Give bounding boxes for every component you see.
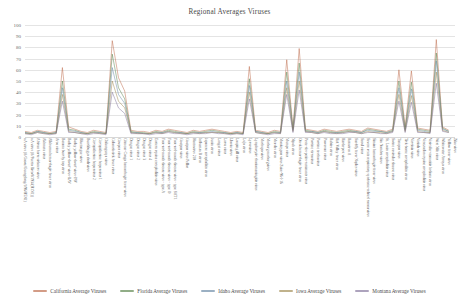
x-axis-tick-label: Crimean-Congo hemorrhagic fever virus <box>123 138 127 197</box>
plot-area <box>25 25 455 137</box>
x-axis-tick-label: Barley yellow dwarf virus-RAV <box>66 138 70 184</box>
x-axis-tick-label: Goatpox virus <box>179 138 183 158</box>
x-axis-tick-label: Foot-and-mouth disease virus - type A <box>160 138 164 193</box>
legend-label: Iowa Average Viruses <box>296 288 341 294</box>
x-axis-tick-label: Colorado tick fever virus <box>110 138 114 174</box>
x-axis-tick-label: Monkeypox virus Zaire-96-I-16 <box>278 138 282 184</box>
y-axis-tick: 80 <box>16 45 21 50</box>
y-axis-tick: 60 <box>16 67 21 72</box>
series-line <box>25 40 449 133</box>
x-axis-tick-label: Lyssavirus <box>247 138 251 153</box>
x-axis-tick-label: Lujo virus <box>241 138 245 153</box>
x-axis-tick-label: Severe acute respiratory syndrome-relate… <box>366 138 370 217</box>
legend-color-swatch <box>279 290 293 291</box>
series-line <box>25 72 449 134</box>
x-axis-tick-label: Vaccinia virus <box>409 138 413 158</box>
chart-title: Regional Averages Viruses <box>0 8 459 16</box>
x-axis-tick-label: Langat virus <box>216 138 220 156</box>
x-axis-tick-label: Chikungunya virus <box>104 138 108 165</box>
y-axis: 0102030405060708090100 <box>0 25 24 137</box>
legend-color-swatch <box>33 290 47 291</box>
series-line <box>25 53 449 134</box>
x-axis-tick-label: Cowpox virus <box>116 138 120 158</box>
x-axis-tick-label: Powassan virus <box>322 138 326 160</box>
x-axis-tick-label: Eastern equine encephalitis virus <box>154 138 158 185</box>
x-axis-tick-label: Vesicular stomatitis Indiana virus <box>428 138 432 186</box>
x-axis-tick-label: Tanapox virus <box>397 138 401 158</box>
legend-item[interactable]: Florida Average Viruses <box>120 288 187 294</box>
x-axis-tick-label: Measles virus <box>272 138 276 158</box>
x-axis-tick-label: Aroa virus <box>54 138 58 153</box>
x-axis-tick-label: Simian hemorrhagic fever virus <box>372 138 376 184</box>
x-axis-tick-label: Rabies virus <box>328 138 332 156</box>
x-axis-tick-label: Banana bunchy top virus <box>60 138 64 174</box>
x-axis-tick-label: St. Louis encephalitis virus <box>384 138 388 177</box>
x-axis-tick-label: Dengue virus 1 <box>129 138 133 160</box>
x-axis-tick-label: Japanese encephalitis virus <box>204 138 208 177</box>
y-axis-tick: 0 <box>19 135 22 140</box>
x-axis-tick-label: Rinderpest virus <box>341 138 345 162</box>
x-axis-tick-label: Foot-and-mouth disease virus - type O <box>166 138 170 193</box>
x-axis-tick-label: Junin virus <box>210 138 214 154</box>
x-axis-tick-label: Barley yellow dwarf virus-PAV <box>73 138 77 183</box>
x-axis-tick-label: Dengue virus 4 <box>147 138 151 160</box>
y-axis-tick: 90 <box>16 34 21 39</box>
y-axis-tick: 40 <box>16 90 21 95</box>
legend-item[interactable]: California Average Viruses <box>33 288 106 294</box>
x-axis-tick-label: Porcine teschovirus <box>316 138 320 166</box>
x-axis-tick-label: Porcine circovirus <box>309 138 313 164</box>
legend-color-swatch <box>120 290 134 291</box>
y-axis-tick: 20 <box>16 112 21 117</box>
x-axis-tick-label: Sandfly fever Naples virus <box>353 138 357 176</box>
legend-item[interactable]: Montana Average Viruses <box>355 288 425 294</box>
legend-label: Idaho Average Viruses <box>218 288 265 294</box>
x-axis-tick-label: Foot-and-mouth disease virus - type SAT … <box>172 138 176 200</box>
x-axis-tick-label: Zika virus <box>453 138 457 153</box>
x-axis-tick-label: Yellow fever virus <box>447 138 451 165</box>
x-axis-tick-label: Tick-borne encephalitis virus <box>403 138 407 180</box>
x-axis-tick-label: Lymphocytic choriomeningitis virus <box>253 138 257 190</box>
x-axis-tick-label: Influenza B virus <box>197 138 201 163</box>
x-axis-tick-label: Rift Valley fever virus <box>334 138 338 170</box>
x-axis-tick-label: Alkhurma hemorrhagic fever virus <box>48 138 52 188</box>
x-axis-tick-label: Rotavirus A <box>347 138 351 155</box>
x-axis-tick-label: Bluetongue virus <box>79 138 83 163</box>
legend-item[interactable]: Iowa Average Viruses <box>279 288 341 294</box>
x-axis-tick-label: Whitewater Arroyo virus <box>440 138 444 174</box>
legend-color-swatch <box>201 290 215 291</box>
x-axis-tick-label: Akhmeta virus <box>42 138 46 159</box>
x-axis-tick-label: Machupo virus <box>260 138 264 160</box>
x-axis-tick-label: Bundibugyo ebolavirus <box>85 138 89 172</box>
x-axis-tick-label: Variola virus <box>415 138 419 156</box>
x-axis-tick-label: a A virus (A/Puerto Rico/8/1934(H1N1)) <box>29 138 33 197</box>
x-axis-tick-label: African horse sickness virus <box>35 138 39 179</box>
x-axis-tick-label: Peste-des-petits-ruminants virus <box>303 138 307 184</box>
y-axis-tick: 50 <box>16 79 21 84</box>
series-lines <box>25 25 455 137</box>
x-axis-labels: a A virus (A/Goose/Guangdong/1/96/H5N1)a… <box>25 138 455 263</box>
y-axis-tick: 30 <box>16 101 21 106</box>
legend-label: California Average Viruses <box>50 288 106 294</box>
legend-label: Florida Average Viruses <box>137 288 187 294</box>
legend-item[interactable]: Idaho Average Viruses <box>201 288 265 294</box>
y-axis-tick: 10 <box>16 123 21 128</box>
y-axis-tick: 70 <box>16 56 21 61</box>
x-axis-tick-label: West Nile virus <box>434 138 438 160</box>
chart-legend: California Average VirusesFlorida Averag… <box>0 284 459 298</box>
x-axis-tick-label: Dengue virus 3 <box>141 138 145 160</box>
x-axis-tick-label: Marburg marburgvirus <box>266 138 270 171</box>
x-axis-tick-label: Hantavirus 210 <box>191 138 195 160</box>
series-line <box>25 83 449 135</box>
series-line <box>25 61 449 134</box>
x-axis-tick-label: a A virus (A/Goose/Guangdong/1/96/H5N1) <box>23 138 27 202</box>
x-axis-tick-label: Swine vesicular disease virus <box>390 138 394 180</box>
legend-label: Montana Average Viruses <box>372 288 425 294</box>
x-axis-tick-label: Nipah virus <box>291 138 295 155</box>
x-axis-tick-label: Goatpox virus Pellor <box>185 138 189 168</box>
x-axis-tick-label: Seoul virus <box>359 138 363 154</box>
x-axis-tick-label: Cercopithecine herpesvirus 2 <box>91 138 95 180</box>
legend-color-swatch <box>355 290 369 291</box>
x-axis-tick-label: Dengue virus 2 <box>135 138 139 160</box>
y-axis-tick: 100 <box>14 23 22 28</box>
x-axis-tick-label: Sin Nombre virus <box>378 138 382 164</box>
